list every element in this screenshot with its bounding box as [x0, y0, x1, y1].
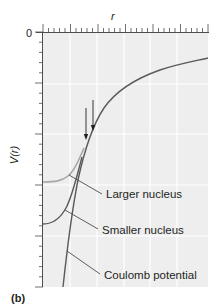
smaller-nucleus-label: Smaller nucleus — [102, 224, 184, 236]
y-axis-label: V(r) — [8, 146, 20, 165]
larger-nucleus-label: Larger nucleus — [106, 188, 182, 200]
panel-label: (b) — [11, 292, 25, 304]
y-zero-label: 0 — [26, 27, 32, 39]
x-ticks — [43, 24, 208, 32]
x-axis-label: r — [111, 10, 116, 22]
coulomb-potential-label: Coulomb potential — [104, 269, 197, 281]
potential-diagram: 0 r V(r) Larger nucleus Smaller nucleus … — [0, 0, 218, 308]
y-ticks — [35, 32, 43, 287]
